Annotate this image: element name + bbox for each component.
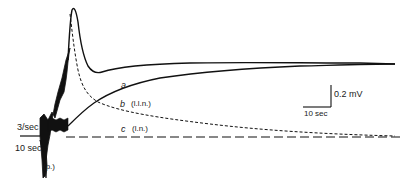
trace-c-annotation: (l.n.) (132, 125, 148, 133)
trace-c (70, 14, 395, 136)
trace-b-annotation: (l.l.n.) (131, 100, 151, 108)
stim-duration-label: 10 sec (15, 144, 42, 153)
stimulation-train (40, 48, 70, 178)
scale-vertical-label: 0.2 mV (334, 90, 363, 99)
trace-a-label: a (121, 81, 126, 90)
trace-c-label: c (121, 125, 126, 134)
trace-a (68, 9, 395, 73)
scale-horizontal-label: 10 sec (304, 110, 328, 118)
scale-bar (303, 85, 331, 107)
phase-label: (p.) (43, 163, 55, 171)
trace-b-label: b (120, 100, 125, 109)
stim-rate-label: 3/sec (17, 123, 39, 132)
